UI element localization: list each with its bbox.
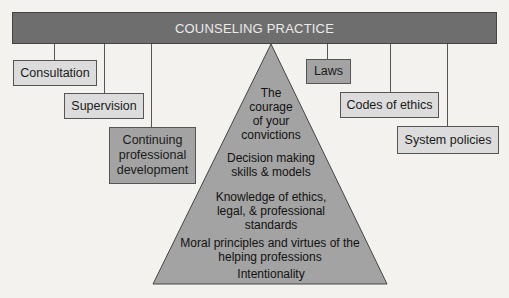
codes-of-ethics-box: Codes of ethics (340, 92, 439, 118)
supervision-box: Supervision (64, 93, 144, 119)
consultation-box: Consultation (13, 60, 97, 86)
pyramid-level-moral-principles: Moral principles and virtues of the help… (180, 236, 359, 264)
pyramid-level-knowledge: Knowledge of ethics, legal, & profession… (216, 190, 327, 232)
continuing-development-box: Continuing professional development (109, 127, 196, 184)
pyramid-level-decision-making: Decision making skills & models (227, 151, 315, 179)
pyramid-level-courage: The courage of your convictions (241, 86, 300, 142)
laws-box: Laws (306, 59, 351, 84)
pyramid-level-intentionality: Intentionality (237, 267, 304, 281)
system-policies-box: System policies (397, 126, 499, 154)
